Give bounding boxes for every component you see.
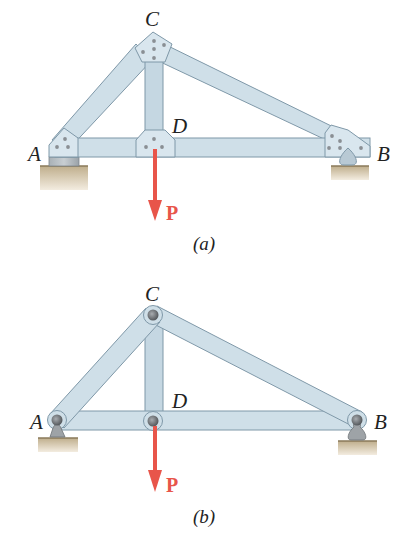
- label-d-a: D: [172, 116, 187, 137]
- figure-a: [40, 32, 370, 221]
- label-c-b: C: [145, 284, 159, 305]
- load-arrow-head-b: [148, 470, 162, 492]
- ground-right-a: [331, 166, 369, 180]
- label-c-a: C: [145, 9, 159, 30]
- member-adb-b: [54, 411, 361, 430]
- load-label-b: P: [166, 475, 178, 495]
- label-b-b: B: [374, 412, 387, 433]
- load-arrow-head-a: [148, 200, 162, 221]
- member-ac-b: [50, 308, 160, 428]
- pin-d: [148, 416, 159, 427]
- member-cd-a: [145, 60, 163, 135]
- caption-b: (b): [193, 507, 215, 526]
- truss-diagrams: [0, 0, 414, 545]
- label-a-b: A: [30, 412, 43, 433]
- pin-c: [148, 310, 159, 321]
- ground-left-a: [40, 166, 88, 190]
- member-cd-b: [145, 325, 163, 420]
- figure-b: [38, 306, 377, 493]
- ground-left-b: [38, 438, 78, 452]
- pin-a: [52, 415, 63, 426]
- member-adb-a: [55, 138, 370, 157]
- label-b-a: B: [377, 144, 390, 165]
- label-d-b: D: [172, 391, 187, 412]
- caption-a: (a): [193, 234, 215, 253]
- pin-b: [352, 415, 363, 426]
- load-label-a: P: [166, 203, 178, 223]
- support-block-a: [49, 157, 79, 166]
- ground-right-b: [338, 441, 377, 455]
- label-a-a: A: [28, 144, 41, 165]
